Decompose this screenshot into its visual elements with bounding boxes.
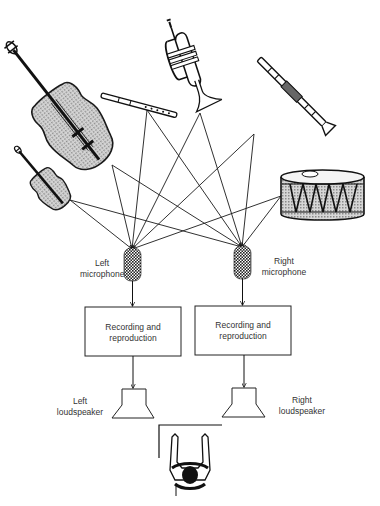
left-recording-box-label: Recording and reproduction — [85, 322, 181, 344]
right-recording-box-label: Recording and reproduction — [195, 320, 291, 342]
cello-icon — [0, 24, 125, 182]
right-loudspeaker-label-line2: loudspeaker — [272, 406, 332, 417]
drum-icon — [281, 170, 364, 220]
right-box-line2: reproduction — [195, 331, 291, 342]
left-loudspeaker-label: Left loudspeaker — [52, 396, 108, 418]
flute-icon — [101, 93, 178, 118]
right-microphone-label: Right microphone — [256, 256, 312, 278]
left-microphone-label: Left microphone — [80, 258, 124, 280]
left-box-line1: Recording and — [85, 322, 181, 333]
right-microphone-icon — [234, 246, 251, 279]
diagram-canvas: Left microphone Right microphone Recordi… — [0, 0, 380, 506]
sound-path-violin-to-right-mic — [70, 200, 242, 247]
right-loudspeaker-label-line1: Right — [272, 395, 332, 406]
left-box-line2: reproduction — [85, 333, 181, 344]
right-box-line1: Recording and — [195, 320, 291, 331]
right-microphone-label-line1: Right — [256, 256, 312, 267]
trumpet-icon — [157, 12, 223, 115]
clarinet-icon — [254, 54, 335, 135]
sound-path-trumpet-to-right-mic — [200, 113, 242, 247]
sound-path-cello-to-left-mic — [112, 165, 132, 249]
left-loudspeaker-label-line1: Left — [52, 396, 108, 407]
sound-path-clarinet-to-left-mic — [132, 134, 254, 249]
left-loudspeaker-label-line2: loudspeaker — [52, 407, 108, 418]
right-loudspeaker-icon — [222, 388, 265, 417]
right-microphone-label-line2: microphone — [256, 267, 312, 278]
diagram-svg — [0, 0, 380, 506]
left-loudspeaker-icon — [112, 389, 154, 418]
listener-icon — [159, 425, 222, 496]
left-microphone-label-line1: Left — [80, 258, 124, 269]
sound-path-violin-to-left-mic — [70, 200, 132, 249]
right-loudspeaker-label: Right loudspeaker — [272, 395, 332, 417]
sound-path-drum-to-right-mic — [242, 196, 281, 247]
sound-path-clarinet-to-right-mic — [242, 134, 254, 247]
left-microphone-icon — [124, 248, 141, 281]
left-microphone-label-line2: microphone — [80, 269, 124, 280]
